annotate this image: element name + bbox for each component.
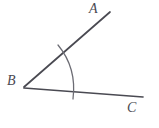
ray-ba-line <box>24 12 110 87</box>
geometry-figure: A B C <box>0 0 159 128</box>
point-label-a: A <box>89 2 98 16</box>
point-label-b: B <box>7 74 16 88</box>
point-label-c: C <box>127 101 136 115</box>
ray-bc-line <box>24 88 143 97</box>
